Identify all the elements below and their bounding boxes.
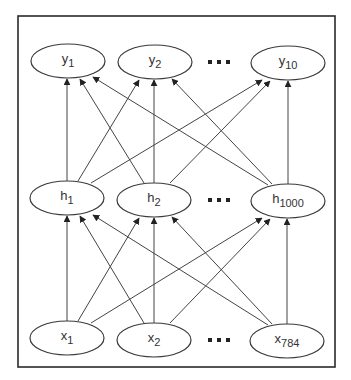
edge-h1-to-y2 xyxy=(78,80,139,181)
ellipsis-input xyxy=(208,338,230,342)
neural-network-diagram: y1y2y10h1h2h1000x1x2x784 xyxy=(0,0,351,380)
node-h1: h1 xyxy=(30,181,104,215)
edge-h1000-to-y1 xyxy=(93,77,268,185)
layer-hidden: h1h2h1000 xyxy=(30,181,325,218)
nodes-group: y1y2y10h1h2h1000x1x2x784 xyxy=(30,44,325,358)
node-x2: x2 xyxy=(117,323,191,357)
edge-x2-to-h1000 xyxy=(170,219,270,323)
node-x784: x784 xyxy=(250,324,324,358)
edge-h2-to-y1 xyxy=(80,79,144,183)
edge-x784-to-h1 xyxy=(93,215,268,325)
node-y10: y10 xyxy=(251,46,325,80)
node-y1: y1 xyxy=(31,44,105,78)
node-h1000: h1000 xyxy=(251,184,325,218)
edge-x2-to-h1 xyxy=(80,216,144,323)
ellipsis-hidden xyxy=(208,198,230,202)
edge-h1-to-y10 xyxy=(91,80,262,183)
ellipsis-output xyxy=(208,60,230,64)
layer-input: x1x2x784 xyxy=(30,321,324,358)
layer-output: y1y2y10 xyxy=(31,44,325,80)
edge-x1-to-h2 xyxy=(78,218,139,321)
edge-x1-to-h1000 xyxy=(91,218,262,323)
edge-h2-to-y10 xyxy=(170,81,270,183)
node-h2: h2 xyxy=(117,183,191,217)
node-y2: y2 xyxy=(118,45,192,79)
node-x1: x1 xyxy=(30,321,104,355)
